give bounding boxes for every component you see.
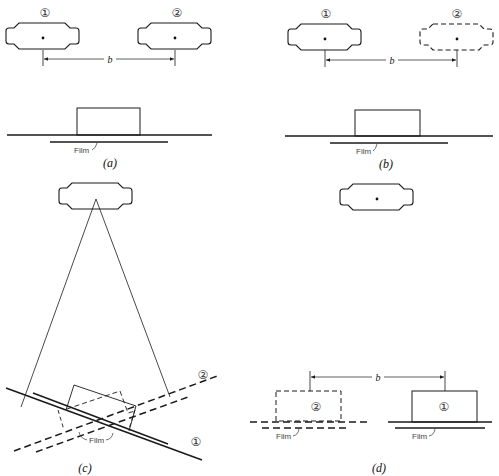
dimension-label-b: b xyxy=(108,54,113,65)
object-box xyxy=(355,110,420,136)
panel-b: ① ② b Film (b) xyxy=(285,7,493,171)
dimension-label-b: b xyxy=(390,55,395,66)
tube-label-2: ② xyxy=(452,7,463,21)
table-line-position-2 xyxy=(14,375,220,451)
caption-c: (c) xyxy=(78,461,91,475)
caption-b: (b) xyxy=(379,157,393,171)
film-label: Film xyxy=(89,436,104,445)
xray-tube-icon xyxy=(340,184,413,210)
table-line-position-1 xyxy=(6,388,202,460)
panel-c: ② ① Film (c) xyxy=(6,183,220,475)
position-label-1: ① xyxy=(191,435,202,449)
panel-d: b ② Film ① Film (d) xyxy=(250,184,492,475)
beam-edge-right xyxy=(96,199,170,397)
dimension-label-b: b xyxy=(376,372,381,383)
object-box-position-1 xyxy=(66,385,136,431)
tube-label-2: ② xyxy=(172,6,183,20)
object-box xyxy=(77,108,140,135)
position-label-2: ② xyxy=(198,368,209,382)
film-label: Film xyxy=(356,147,371,156)
focal-spot-1 xyxy=(42,37,45,40)
xray-tube-1-icon xyxy=(6,23,79,49)
film-label-1: Film xyxy=(412,432,427,441)
beam-edge-left xyxy=(21,199,96,407)
object-label-1: ① xyxy=(439,400,450,414)
xray-tube-icon xyxy=(59,183,132,209)
tube-label-1: ① xyxy=(40,6,51,20)
xray-tube-2-icon xyxy=(138,23,211,49)
film-label: Film xyxy=(74,146,89,155)
film-label-2: Film xyxy=(276,432,291,441)
focal-spot-2 xyxy=(174,37,177,40)
tube-label-1: ① xyxy=(321,7,332,21)
object-box-position-2 xyxy=(276,391,341,421)
film-line-position-2 xyxy=(36,397,188,452)
object-label-2: ② xyxy=(311,400,322,414)
panel-a: ① ② b Film (a) xyxy=(6,6,212,170)
caption-a: (a) xyxy=(103,156,117,170)
xray-tube-1-icon xyxy=(288,24,361,50)
xray-tube-2-shifted-icon xyxy=(420,24,493,50)
stereo-radiography-figure: ① ② b Film (a) ① ② b Film xyxy=(0,0,499,476)
caption-d: (d) xyxy=(372,461,386,475)
